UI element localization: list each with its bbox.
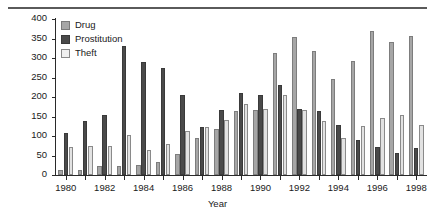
x-axis-tick-mark [183, 176, 184, 180]
bar-drug-1995 [351, 61, 355, 175]
bar-drug-1984 [136, 165, 140, 175]
bar-drug-1983 [117, 166, 121, 175]
x-axis-tick-mark [319, 176, 320, 180]
bar-prostitution-1981 [83, 121, 87, 175]
bar-prostitution-1990 [258, 95, 262, 175]
legend-item-theft: Theft [61, 47, 123, 59]
bar-prostitution-1991 [278, 85, 282, 175]
bar-drug-1989 [234, 111, 238, 175]
bar-theft-1984 [147, 150, 151, 175]
x-axis-tick-mark [416, 176, 417, 180]
bar-theft-1996 [380, 118, 384, 175]
bar-drug-1993 [312, 51, 316, 175]
legend-swatch-theft [61, 49, 70, 58]
x-axis-tick-label: 1982 [94, 182, 115, 193]
x-axis-tick-label: 1998 [406, 182, 427, 193]
y-axis-tick-label: 300 [31, 52, 47, 62]
bar-theft-1997 [400, 115, 404, 175]
bar-theft-1987 [205, 127, 209, 175]
bar-theft-1989 [244, 104, 248, 175]
chart-figure: 050100150200250300350400 Arrests 1980198… [0, 0, 435, 217]
y-axis-tick-label: 400 [31, 13, 47, 23]
bar-theft-1983 [127, 135, 131, 175]
bar-theft-1990 [263, 109, 267, 175]
legend-label: Theft [75, 48, 97, 58]
x-axis-tick-mark [377, 176, 378, 180]
bar-prostitution-1980 [64, 133, 68, 176]
x-axis-tick-mark [163, 176, 164, 180]
x-axis-tick-label: 1994 [328, 182, 349, 193]
bar-theft-1988 [224, 120, 228, 175]
bar-prostitution-1983 [122, 46, 126, 175]
bar-drug-1980 [58, 170, 62, 175]
legend-label: Prostitution [75, 34, 123, 44]
bar-theft-1998 [419, 125, 423, 175]
bar-theft-1980 [69, 147, 73, 175]
bar-drug-1997 [389, 42, 393, 175]
bar-drug-1991 [273, 53, 277, 175]
legend-item-prostitution: Prostitution [61, 33, 123, 45]
legend-item-drug: Drug [61, 19, 123, 31]
x-axis-tick-mark [280, 176, 281, 180]
y-axis-tick-label: 100 [31, 130, 47, 140]
x-axis-tick-mark [124, 176, 125, 180]
bar-theft-1985 [166, 144, 170, 175]
x-axis-tick-mark [241, 176, 242, 180]
top-divider-rule [8, 7, 427, 9]
y-axis-title: Arrests [0, 49, 1, 119]
x-axis-tick-mark [397, 176, 398, 180]
bar-prostitution-1982 [102, 115, 106, 175]
bar-drug-1988 [214, 129, 218, 175]
bar-drug-1990 [253, 110, 257, 175]
x-axis-title: Year [0, 198, 435, 209]
bar-drug-1985 [156, 162, 160, 175]
bar-theft-1982 [108, 146, 112, 175]
bar-drug-1981 [78, 170, 82, 175]
bar-theft-1995 [361, 126, 365, 175]
bar-drug-1982 [97, 166, 101, 175]
x-axis-tick-label: 1980 [55, 182, 76, 193]
bar-theft-1981 [88, 146, 92, 175]
legend-label: Drug [75, 20, 96, 30]
bar-prostitution-1995 [356, 140, 360, 175]
bar-drug-1986 [175, 154, 179, 175]
bar-drug-1992 [292, 37, 296, 175]
bar-prostitution-1994 [336, 125, 340, 175]
bar-drug-1994 [331, 79, 335, 175]
x-axis-tick-mark [85, 176, 86, 180]
bar-theft-1993 [322, 121, 326, 175]
x-axis-tick-mark [260, 176, 261, 180]
y-axis-tick-label: 250 [31, 72, 47, 82]
bar-prostitution-1989 [239, 93, 243, 175]
chart-legend: DrugProstitutionTheft [61, 19, 123, 61]
bar-prostitution-1996 [375, 147, 379, 175]
bar-prostitution-1988 [219, 110, 223, 175]
legend-swatch-prostitution [61, 35, 70, 44]
x-axis-tick-label: 1984 [133, 182, 154, 193]
x-axis-tick-mark [222, 176, 223, 180]
y-axis-tick-label: 50 [36, 150, 47, 160]
x-axis-tick-label: 1992 [289, 182, 310, 193]
y-axis-tick-label: 150 [31, 111, 47, 121]
bar-theft-1994 [341, 138, 345, 175]
bar-prostitution-1985 [161, 68, 165, 175]
y-axis-tick-label: 0 [42, 169, 47, 179]
x-axis-tick-label: 1986 [172, 182, 193, 193]
x-axis-tick-mark [105, 176, 106, 180]
x-axis-tick-mark [299, 176, 300, 180]
y-axis-tick-label: 200 [31, 91, 47, 101]
bar-drug-1996 [370, 31, 374, 175]
x-axis-tick-label: 1996 [367, 182, 388, 193]
x-axis-tick-label: 1990 [250, 182, 271, 193]
bar-prostitution-1986 [180, 95, 184, 175]
bar-prostitution-1987 [200, 127, 204, 175]
y-axis-tick-mark [52, 175, 56, 176]
x-axis-tick-mark [144, 176, 145, 180]
x-axis-tick-mark [66, 176, 67, 180]
y-axis-tick-label: 350 [31, 33, 47, 43]
legend-swatch-drug [61, 21, 70, 30]
bar-prostitution-1984 [141, 62, 145, 175]
x-axis-tick-mark [358, 176, 359, 180]
bar-prostitution-1993 [317, 111, 321, 175]
x-axis-tick-mark [338, 176, 339, 180]
